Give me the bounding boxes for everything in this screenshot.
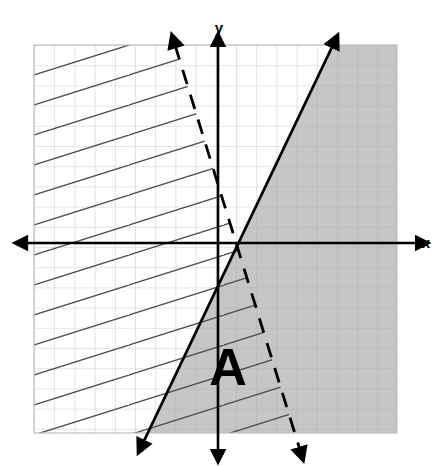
coordinate-plane-svg: x y A bbox=[0, 0, 445, 466]
y-axis-label: y bbox=[215, 19, 224, 36]
graph-figure: x y A bbox=[0, 0, 445, 466]
x-axis-label: x bbox=[422, 234, 431, 251]
region-label-a: A bbox=[209, 338, 247, 396]
